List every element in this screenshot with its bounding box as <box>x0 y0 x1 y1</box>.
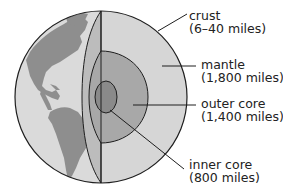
outer-core-thickness: (1,400 miles) <box>201 110 283 123</box>
outer-core-label: outer core (1,400 miles) <box>201 97 283 123</box>
inner-core-thickness: (800 miles) <box>189 171 260 184</box>
crust-label: crust (6–40 miles) <box>189 9 266 35</box>
inner-core-region <box>95 81 117 113</box>
crust-leader-line <box>158 14 187 31</box>
inner-core-label: inner core (800 miles) <box>189 158 260 184</box>
mantle-thickness: (1,800 miles) <box>201 71 283 84</box>
mantle-label: mantle (1,800 miles) <box>201 58 283 84</box>
crust-thickness: (6–40 miles) <box>189 22 266 35</box>
